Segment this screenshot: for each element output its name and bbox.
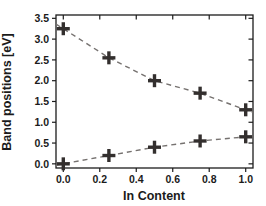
data-point-marker: [148, 141, 161, 154]
data-point-marker: [239, 130, 252, 143]
series-upper-band-edge-line: [56, 24, 253, 112]
y-tick-label: 0.0: [34, 158, 49, 170]
data-point-marker: [194, 87, 207, 100]
axes-layer: 0.00.20.40.60.81.00.00.51.01.52.02.53.03…: [34, 12, 253, 185]
x-tick-label: 1.0: [238, 173, 253, 185]
x-tick-label: 0.6: [165, 173, 180, 185]
band-positions-figure: 0.00.20.40.60.81.00.00.51.01.52.02.53.03…: [0, 0, 266, 206]
y-tick-label: 2.5: [34, 54, 49, 66]
x-tick-label: 0.8: [202, 173, 217, 185]
data-point-marker: [57, 22, 70, 35]
data-point-marker: [148, 74, 161, 87]
x-tick-label: 0.4: [129, 173, 144, 185]
x-axis-title: In Content: [123, 189, 186, 203]
y-tick-label: 1.5: [34, 95, 49, 107]
y-tick-label: 3.5: [34, 12, 49, 24]
data-point-marker: [194, 134, 207, 147]
data-layer: [56, 22, 253, 170]
band-positions-chart: 0.00.20.40.60.81.00.00.51.01.52.02.53.03…: [0, 0, 266, 206]
y-tick-label: 3.0: [34, 33, 49, 45]
x-tick-label: 0.2: [92, 173, 107, 185]
data-point-marker: [102, 149, 115, 162]
y-tick-label: 2.0: [34, 74, 49, 86]
data-point-marker: [239, 103, 252, 116]
data-point-marker: [102, 51, 115, 64]
y-tick-label: 0.5: [34, 137, 49, 149]
y-axis-title: Band positions [eV]: [0, 33, 14, 150]
x-tick-label: 0.0: [56, 173, 71, 185]
y-tick-label: 1.0: [34, 116, 49, 128]
